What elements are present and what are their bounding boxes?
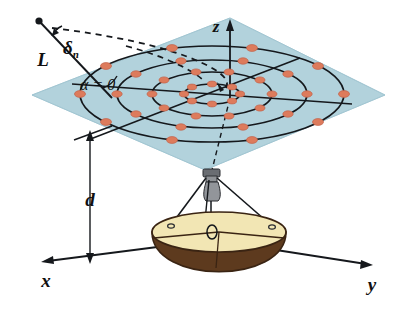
y-axis-label: y [366, 274, 377, 295]
distance-d-label: d [85, 189, 95, 210]
node-dot [101, 63, 112, 70]
node-dot [167, 45, 178, 52]
node-dot [176, 124, 186, 130]
node-dot [247, 137, 258, 144]
z-axis-label: z [212, 17, 220, 36]
node-dot [167, 137, 178, 144]
delta-subscript: n [73, 48, 79, 60]
node-dot [207, 101, 216, 107]
node-dot [179, 91, 188, 97]
node-dot [238, 124, 248, 130]
node-dot [227, 84, 236, 90]
node-dot [224, 69, 234, 75]
node-dot [101, 119, 112, 126]
node-dot [339, 91, 350, 98]
node-dot [283, 111, 293, 117]
lamp-socket [206, 176, 217, 182]
lamp-bulb [204, 182, 221, 201]
alpha-zero-label: α = 0 [80, 76, 115, 93]
cord-anchor-right [269, 225, 276, 229]
figure-root: z x y d L δn α = 0 O [0, 0, 400, 311]
node-dot [283, 71, 293, 77]
node-dot [187, 84, 196, 90]
figure-canvas: z x y d L δn α = 0 O [0, 0, 400, 311]
node-dot [313, 119, 324, 126]
node-dot [313, 63, 324, 70]
bowl-group [152, 212, 286, 272]
x-axis-label: x [40, 270, 51, 291]
node-dot [147, 91, 157, 97]
source-point [35, 17, 42, 24]
node-dot [191, 69, 201, 75]
ray-L-label: L [36, 49, 49, 70]
node-dot [302, 91, 312, 97]
node-dot [131, 111, 141, 117]
delta-symbol: δ [63, 37, 73, 58]
y-axis-arrowhead [360, 260, 373, 269]
node-dot [187, 98, 196, 104]
cord-anchor-left [168, 224, 175, 228]
node-dot [267, 91, 277, 97]
node-dot [255, 105, 265, 111]
node-dot [176, 58, 186, 64]
node-dot [159, 77, 169, 83]
node-dot [255, 77, 265, 83]
delta-n-label: δn [63, 37, 79, 60]
node-dot [224, 113, 234, 119]
node-dot [131, 71, 141, 77]
node-dot [247, 45, 258, 52]
node-dot [159, 105, 169, 111]
node-dot [238, 58, 248, 64]
node-dot [207, 81, 216, 87]
node-dot [227, 98, 236, 104]
node-dot [235, 91, 244, 97]
x-axis-arrowhead [41, 256, 54, 264]
node-dot [191, 113, 201, 119]
